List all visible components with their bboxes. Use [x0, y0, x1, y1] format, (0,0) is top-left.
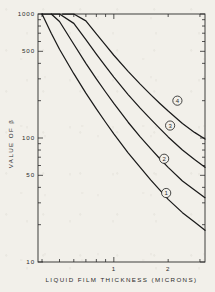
x-tick-label: 2: [164, 265, 172, 272]
x-tick-label: 1: [110, 265, 118, 272]
chart-canvas: 1234: [0, 0, 215, 292]
y-tick-label: 500: [22, 47, 35, 54]
figure-background: [0, 0, 215, 292]
y-tick-label: 1000: [18, 10, 35, 17]
y-axis-title: VALUE OF β: [7, 112, 14, 176]
y-tick-label: 10: [26, 258, 35, 265]
y-tick-label: 100: [22, 134, 35, 141]
x-axis-title: LIQUID FILM THICKNESS (MICRONS): [38, 276, 205, 283]
y-tick-label: 50: [26, 171, 35, 178]
